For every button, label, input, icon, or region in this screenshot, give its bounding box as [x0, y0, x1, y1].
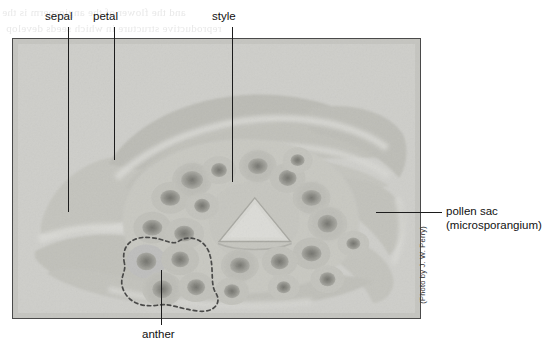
- leader-line-pollen-sac: [376, 212, 442, 213]
- micrograph-canvas: [13, 39, 420, 318]
- label-style: style: [212, 10, 236, 24]
- label-pollen-sac: pollen sac (microsporangium): [446, 205, 549, 232]
- label-pollen-sac-line-1: pollen sac: [446, 205, 498, 217]
- leader-line-sepal: [68, 27, 69, 212]
- photo-credit: (Photo by J. W. Perry): [418, 226, 427, 304]
- micrograph-photo: [12, 38, 421, 319]
- label-anther: anther: [142, 328, 175, 342]
- leader-line-petal: [114, 27, 115, 160]
- leader-line-style: [232, 27, 233, 182]
- figure-root: and the flower of the angiosperm is the …: [0, 0, 549, 347]
- label-pollen-sac-line-2: (microsporangium): [446, 219, 542, 231]
- leader-line-anther: [161, 270, 162, 325]
- label-sepal: sepal: [45, 10, 73, 24]
- label-petal: petal: [93, 10, 118, 24]
